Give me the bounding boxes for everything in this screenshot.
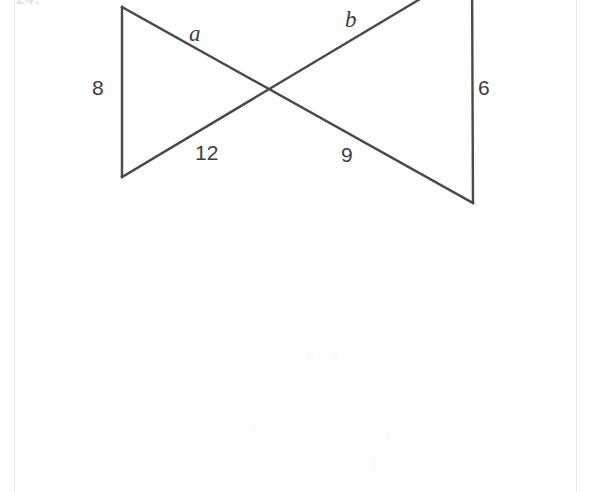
scanned-page: 24. a b 8 6 12 9 [0,0,597,492]
scan-artifact [385,432,392,436]
scan-artifact [307,352,313,361]
scan-artifact [251,427,256,432]
side-label-9: 9 [341,144,353,165]
side-label-b: b [345,8,357,31]
side-label-a: a [189,22,201,45]
segment-right-vertical-side [472,0,473,203]
crossing-triangles-diagram [0,0,597,492]
side-label-12: 12 [195,142,218,163]
segment-lower-left-to-upper-right-diagonal [122,0,472,177]
scan-artifact [371,458,376,469]
segment-upper-left-to-lower-right-diagonal [122,7,473,203]
side-label-8: 8 [92,77,104,98]
side-label-6: 6 [478,77,490,98]
scan-artifact [330,353,339,360]
